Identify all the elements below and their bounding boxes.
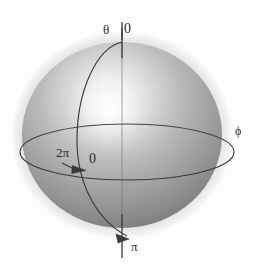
- sphere-diagram-figure: θ 0 ϕ 2π 0 π: [0, 0, 257, 271]
- sphere-diagram-canvas: [0, 0, 257, 271]
- label-zero-north-pole: 0: [124, 22, 131, 36]
- label-pi: π: [131, 240, 138, 253]
- label-two-pi: 2π: [56, 146, 69, 159]
- label-theta: θ: [103, 23, 109, 36]
- label-phi: ϕ: [235, 125, 241, 137]
- label-zero-equator: 0: [89, 152, 96, 166]
